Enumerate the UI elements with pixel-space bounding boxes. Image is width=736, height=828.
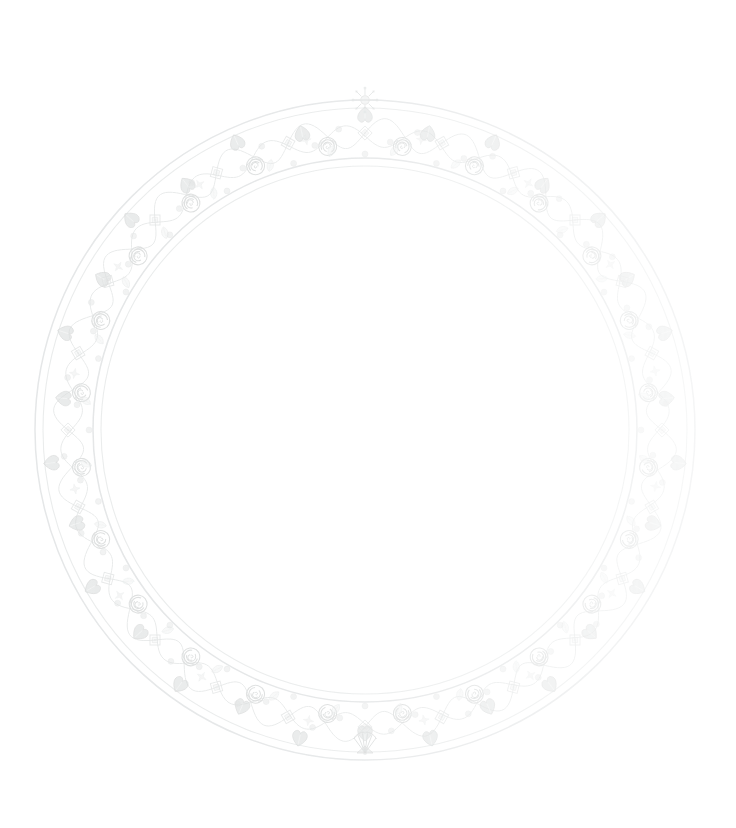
berry-dot-motif	[388, 728, 394, 734]
floral-wreath-border	[0, 0, 736, 828]
berry-dot-motif	[593, 621, 599, 627]
berry-dot-motif	[131, 233, 137, 239]
ornament-canvas: circular floral wreath border	[0, 0, 736, 828]
berry-dot-motif	[583, 241, 589, 247]
berry-dot-motif	[490, 153, 496, 159]
berry-dot-motif	[433, 160, 439, 166]
berry-dot-motif	[646, 324, 652, 330]
berry-dot-motif	[115, 600, 121, 606]
berry-dot-motif	[433, 694, 439, 700]
berry-dot-motif	[125, 261, 131, 267]
berry-dot-motif	[95, 356, 101, 362]
berry-dot-motif	[601, 565, 607, 571]
berry-dot-motif	[95, 498, 101, 504]
berry-dot-motif	[624, 305, 630, 311]
berry-dot-motif	[90, 328, 96, 334]
berry-dot-motif	[500, 666, 506, 672]
berry-dot-motif	[557, 622, 563, 628]
berry-dot-motif	[634, 526, 640, 532]
berry-dot-motif	[100, 549, 106, 555]
berry-dot-motif	[387, 139, 393, 145]
berry-dot-motif	[141, 613, 147, 619]
berry-dot-motif	[556, 196, 562, 202]
berry-dot-motif	[484, 689, 490, 695]
berry-dot-motif	[599, 593, 605, 599]
berry-dot-motif	[535, 674, 541, 680]
berry-dot-motif	[310, 724, 316, 730]
berry-dot-motif	[234, 701, 240, 707]
berry-dot-motif	[465, 711, 471, 717]
berry-dot-motif	[362, 151, 368, 157]
berry-dot-motif	[189, 180, 195, 186]
berry-dot-motif	[291, 694, 297, 700]
berry-dot-motif	[629, 498, 635, 504]
berry-dot-motif	[412, 712, 418, 718]
berry-dot-motif	[65, 375, 71, 381]
berry-dot-motif	[337, 715, 343, 721]
berry-dot-motif	[461, 155, 467, 161]
berry-dot-motif	[336, 126, 342, 132]
berry-dot-motif	[312, 142, 318, 148]
berry-dot-motif	[291, 160, 297, 166]
berry-dot-motif	[224, 188, 230, 194]
berry-dot-motif	[263, 699, 269, 705]
berry-dot-motif	[77, 477, 83, 483]
berry-dot-motif	[636, 555, 642, 561]
berry-dot-motif	[88, 299, 94, 305]
berry-dot-motif	[86, 427, 92, 433]
berry-dot-motif	[609, 254, 615, 260]
berry-dot-motif	[167, 232, 173, 238]
berry-dot-motif	[629, 356, 635, 362]
berry-dot-motif	[601, 289, 607, 295]
berry-dot-motif	[659, 480, 665, 486]
berry-dot-motif	[74, 402, 80, 408]
berry-dot-motif	[528, 190, 534, 196]
berry-dot-motif	[548, 648, 554, 654]
berry-dot-motif	[167, 622, 173, 628]
berry-dot-motif	[500, 188, 506, 194]
berry-dot-motif	[224, 666, 230, 672]
berry-dot-motif	[650, 452, 656, 458]
berry-dot-motif	[362, 703, 368, 709]
berry-dot-motif	[78, 530, 84, 536]
berry-dot-motif	[123, 289, 129, 295]
berry-dot-motif	[638, 427, 644, 433]
berry-dot-motif	[196, 664, 202, 670]
berry-dot-motif	[61, 453, 67, 459]
empty-center	[107, 172, 623, 688]
berry-dot-motif	[557, 232, 563, 238]
berry-dot-motif	[240, 165, 246, 171]
berry-dot-motif	[123, 565, 129, 571]
berry-dot-motif	[176, 206, 182, 212]
berry-dot-motif	[647, 377, 653, 383]
berry-dot-motif	[663, 401, 669, 407]
berry-dot-motif	[415, 130, 421, 136]
berry-dot-motif	[259, 143, 265, 149]
berry-dot-motif	[168, 658, 174, 664]
